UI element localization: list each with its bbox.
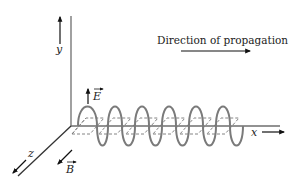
magnetic-field-label: B: [65, 163, 74, 176]
y-axis-label: y: [55, 43, 63, 56]
z-axis-line: [18, 126, 71, 176]
em-wave-diagram: y E Direction of propagation x z B: [0, 0, 296, 185]
z-axis-label: z: [27, 147, 34, 160]
propagation-label: Direction of propagation: [157, 34, 288, 46]
x-axis-label: x: [251, 126, 258, 139]
electric-field-label: E: [92, 90, 101, 103]
